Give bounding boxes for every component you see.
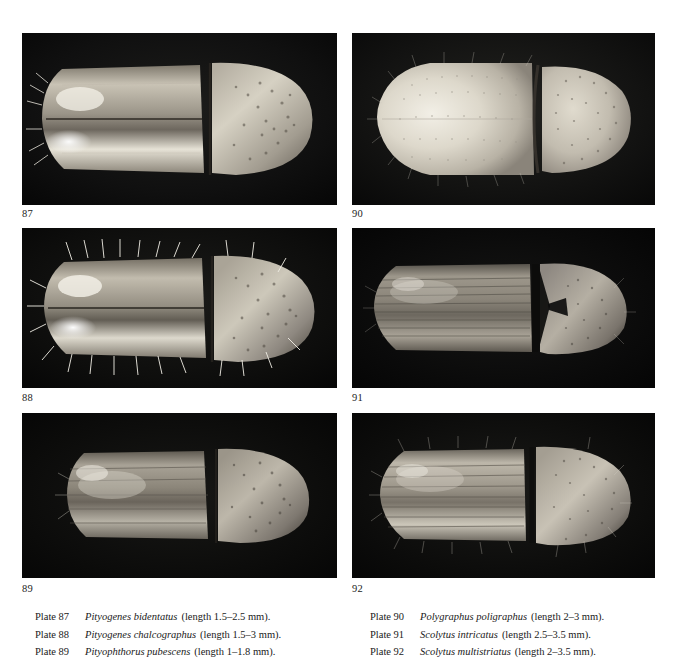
specimen-image-92 — [352, 413, 655, 578]
caption-length-87: (length 1.5–2.5 mm). — [181, 608, 270, 626]
caption-species-88: Pityogenes chalcographus — [85, 626, 200, 644]
caption-plate-label-88: Plate 88 — [35, 626, 85, 644]
specimen-image-88 — [22, 228, 337, 388]
figure-number-88: 88 — [22, 393, 33, 404]
photo-plate-90 — [352, 33, 655, 205]
caption-line-plate-90: Plate 90 Polygraphus poligraphus (length… — [370, 608, 680, 626]
caption-block-left: Plate 87 Pityogenes bidentatus (length 1… — [35, 608, 355, 661]
figure-number-91: 91 — [352, 393, 363, 404]
caption-plate-label-89: Plate 89 — [35, 643, 85, 661]
caption-plate-label-92: Plate 92 — [370, 643, 420, 661]
specimen-image-87 — [22, 33, 337, 205]
caption-length-91: (length 2.5–3.5 mm). — [502, 626, 591, 644]
caption-species-91: Scolytus intricatus — [420, 626, 502, 644]
caption-plate-label-87: Plate 87 — [35, 608, 85, 626]
caption-plate-label-91: Plate 91 — [370, 626, 420, 644]
caption-length-88: (length 1.5–3 mm). — [200, 626, 281, 644]
specimen-image-89 — [22, 413, 337, 578]
caption-species-90: Polygraphus poligraphus — [420, 608, 531, 626]
photo-plate-91 — [352, 228, 655, 388]
caption-plate-label-90: Plate 90 — [370, 608, 420, 626]
photo-plate-92 — [352, 413, 655, 578]
figure-number-87: 87 — [22, 209, 33, 220]
caption-species-87: Pityogenes bidentatus — [85, 608, 181, 626]
photo-plate-89 — [22, 413, 337, 578]
plate-sheet: 87 — [0, 0, 686, 661]
caption-line-plate-87: Plate 87 Pityogenes bidentatus (length 1… — [35, 608, 355, 626]
photo-plate-88 — [22, 228, 337, 388]
figure-number-92: 92 — [352, 584, 363, 595]
specimen-image-91 — [352, 228, 655, 388]
caption-length-90: (length 2–3 mm). — [531, 608, 604, 626]
figure-number-89: 89 — [22, 584, 33, 595]
caption-length-92: (length 2–3.5 mm). — [515, 643, 596, 661]
caption-line-plate-89: Plate 89 Pityophthorus pubescens (length… — [35, 643, 355, 661]
caption-line-plate-92: Plate 92 Scolytus multistriatus (length … — [370, 643, 680, 661]
caption-line-plate-91: Plate 91 Scolytus intricatus (length 2.5… — [370, 626, 680, 644]
caption-length-89: (length 1–1.8 mm). — [194, 643, 275, 661]
caption-species-92: Scolytus multistriatus — [420, 643, 515, 661]
caption-block-right: Plate 90 Polygraphus poligraphus (length… — [370, 608, 680, 661]
caption-line-plate-88: Plate 88 Pityogenes chalcographus (lengt… — [35, 626, 355, 644]
caption-species-89: Pityophthorus pubescens — [85, 643, 194, 661]
photo-plate-87 — [22, 33, 337, 205]
specimen-image-90 — [352, 33, 655, 205]
figure-number-90: 90 — [352, 209, 363, 220]
